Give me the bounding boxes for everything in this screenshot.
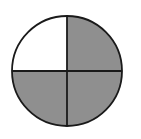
- fraction-circle-diagram: [0, 0, 141, 139]
